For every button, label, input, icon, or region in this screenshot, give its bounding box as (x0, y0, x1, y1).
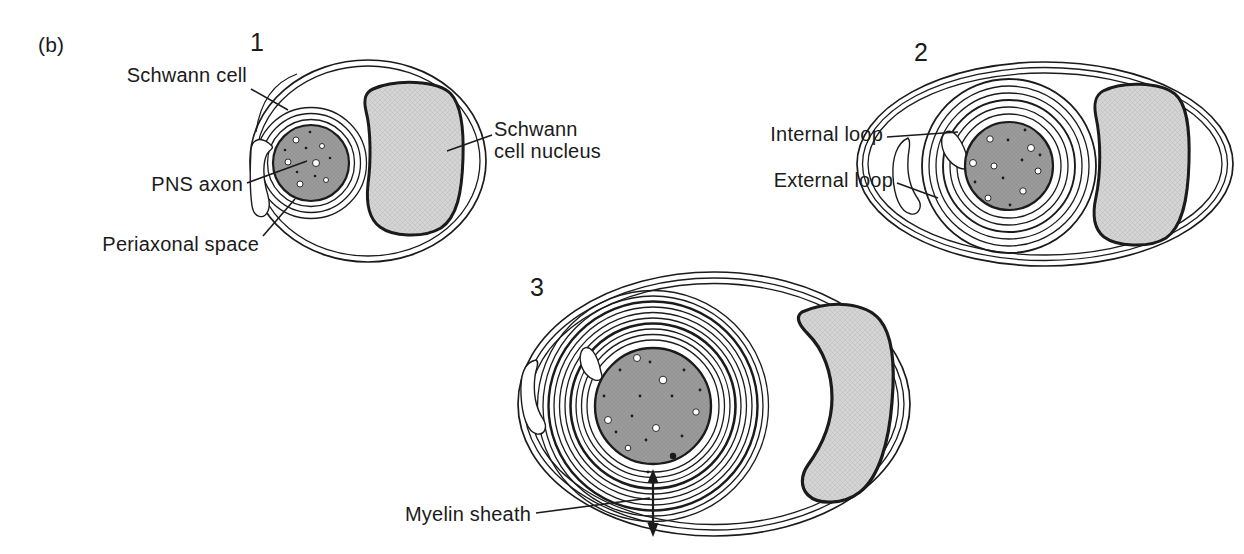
myelin-sheath-label: Myelin sheath (381, 503, 531, 525)
stage1-number: 1 (237, 31, 277, 53)
stage3-schwann-cell (518, 272, 910, 537)
stage2-schwann-cell-nucleus (1094, 84, 1189, 245)
schwann-cell-nucleus-label: Schwann cell nucleus (494, 118, 634, 162)
stage1-schwann-cell-nucleus (365, 82, 463, 235)
periaxonal-space-label: Periaxonal space (59, 233, 259, 255)
stage2-schwann-cell (857, 62, 1233, 266)
internal-loop-label: Internal loop (733, 123, 883, 145)
panel-label: (b) (38, 34, 64, 56)
stage1-pns-axon (273, 125, 349, 201)
stage3-pns-axon (595, 348, 711, 464)
stage2-pns-axon (965, 122, 1053, 210)
stage3-number: 3 (517, 276, 557, 298)
schwann-cell-label: Schwann cell (97, 64, 247, 86)
stage2-number: 2 (901, 41, 941, 63)
external-loop-label: External loop (733, 169, 893, 191)
figure-panel-b: (b) 1 2 3 Schwann cell PNS axon Periaxon… (0, 0, 1244, 554)
pns-axon-label: PNS axon (93, 173, 243, 195)
stage1-schwann-cell (250, 60, 486, 262)
